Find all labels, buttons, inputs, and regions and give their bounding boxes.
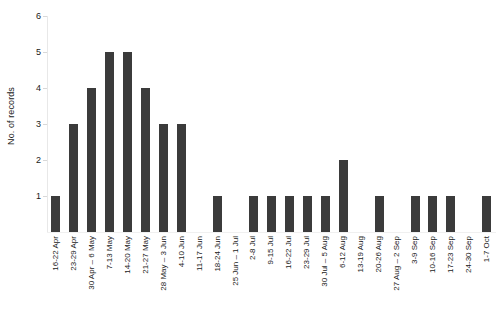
bar xyxy=(213,196,222,232)
x-axis-label-slot: 16-22 Jul xyxy=(280,236,298,318)
bar xyxy=(159,124,168,232)
x-axis-tick-label: 28 May – 3 Jun xyxy=(160,236,168,291)
x-axis-label-slot: 13-19 Aug xyxy=(352,236,370,318)
bar-slot xyxy=(227,16,245,232)
y-axis-tick-label: 3 xyxy=(36,119,41,129)
bar xyxy=(482,196,491,232)
x-axis-label-slot: 2-8 Jul xyxy=(244,236,262,318)
y-axis-tick-label: 2 xyxy=(36,155,41,165)
y-axis-tick-label: 5 xyxy=(36,47,41,57)
bar xyxy=(249,196,258,232)
x-axis-label-slot: 3-9 Sep xyxy=(406,236,424,318)
x-axis-tick-label: 23-29 Apr xyxy=(70,236,78,271)
bar-slot xyxy=(406,16,424,232)
y-axis-title-label: No. of records xyxy=(6,87,16,145)
x-axis-labels: 16-22 Apr23-29 Apr30 Apr – 6 May7-13 May… xyxy=(47,236,496,318)
bar xyxy=(177,124,186,232)
x-axis-label-slot: 11-17 Jun xyxy=(191,236,209,318)
x-axis-label-slot: 30 Jul – 5 Aug xyxy=(316,236,334,318)
bar-slot xyxy=(424,16,442,232)
bar-slot xyxy=(209,16,227,232)
bar-chart: No. of records 123456 16-22 Apr23-29 Apr… xyxy=(0,0,504,321)
bar xyxy=(339,160,348,232)
bar-slot xyxy=(173,16,191,232)
x-axis-label-slot: 20-26 Aug xyxy=(370,236,388,318)
x-axis-tick-label: 14-20 May xyxy=(124,236,132,274)
x-axis-tick-label: 16-22 Apr xyxy=(52,236,60,271)
x-axis-label-slot: 24-30 Sep xyxy=(460,236,478,318)
bar-slot xyxy=(370,16,388,232)
x-axis-label-slot: 25 Jun – 1 Jul xyxy=(227,236,245,318)
bar-slot xyxy=(191,16,209,232)
bar xyxy=(51,196,60,232)
x-axis-tick-label: 6-12 Aug xyxy=(339,236,347,268)
bar-slot xyxy=(65,16,83,232)
x-axis-tick-label: 23-29 Jul xyxy=(303,236,311,269)
x-axis-label-slot: 10-16 Sep xyxy=(424,236,442,318)
x-axis-label-slot: 23-29 Jul xyxy=(298,236,316,318)
bar xyxy=(285,196,294,232)
x-axis-label-slot: 6-12 Aug xyxy=(334,236,352,318)
x-axis-tick-label: 4-10 Jun xyxy=(178,236,186,267)
bar-slot xyxy=(442,16,460,232)
x-axis-label-slot: 27 Aug – 2 Sep xyxy=(388,236,406,318)
bar-slot xyxy=(280,16,298,232)
x-axis-tick-label: 25 Jun – 1 Jul xyxy=(232,236,240,286)
bar-slot xyxy=(478,16,496,232)
bar-slot xyxy=(244,16,262,232)
x-axis-tick-label: 10-16 Sep xyxy=(429,236,437,273)
bar-slot xyxy=(262,16,280,232)
x-axis-tick-label: 30 Apr – 6 May xyxy=(88,236,96,290)
y-axis-tick-label: 4 xyxy=(36,83,41,93)
bar xyxy=(267,196,276,232)
x-axis-tick-label: 27 Aug – 2 Sep xyxy=(393,236,401,291)
bar xyxy=(375,196,384,232)
y-axis-tick-label: 1 xyxy=(36,191,41,201)
bar-slot xyxy=(83,16,101,232)
x-axis-tick-label: 16-22 Jul xyxy=(285,236,293,269)
plot-area: 123456 xyxy=(47,16,496,232)
bar-slot xyxy=(119,16,137,232)
x-axis-tick-label: 21-27 May xyxy=(142,236,150,274)
x-axis-label-slot: 23-29 Apr xyxy=(65,236,83,318)
x-axis-label-slot: 1-7 Oct xyxy=(478,236,496,318)
x-axis-label-slot: 4-10 Jun xyxy=(173,236,191,318)
bar xyxy=(123,52,132,232)
x-axis-label-slot: 28 May – 3 Jun xyxy=(155,236,173,318)
x-axis-tick-label: 1-7 Oct xyxy=(483,236,491,262)
x-axis-tick-label: 2-8 Jul xyxy=(249,236,257,260)
bar xyxy=(141,88,150,232)
bar-slot xyxy=(47,16,65,232)
x-axis-label-slot: 18-24 Jun xyxy=(209,236,227,318)
x-axis-tick-label: 24-30 Sep xyxy=(465,236,473,273)
bar-slot xyxy=(101,16,119,232)
x-axis-tick-label: 18-24 Jun xyxy=(214,236,222,272)
x-axis-label-slot: 7-13 May xyxy=(101,236,119,318)
x-axis-tick-label: 3-9 Sep xyxy=(411,236,419,264)
bar-slot xyxy=(460,16,478,232)
x-axis-tick-label: 17-23 Sep xyxy=(447,236,455,273)
x-axis-label-slot: 21-27 May xyxy=(137,236,155,318)
bar xyxy=(105,52,114,232)
bar-slot xyxy=(334,16,352,232)
x-axis-label-slot: 14-20 May xyxy=(119,236,137,318)
x-axis-tick-label: 13-19 Aug xyxy=(357,236,365,272)
bar-slot xyxy=(155,16,173,232)
bar-slot xyxy=(137,16,155,232)
x-axis-tick-label: 30 Jul – 5 Aug xyxy=(321,236,329,287)
bar-series xyxy=(47,16,496,232)
bar xyxy=(303,196,312,232)
bar xyxy=(446,196,455,232)
bar xyxy=(87,88,96,232)
x-axis-label-slot: 9-15 Jul xyxy=(262,236,280,318)
bar xyxy=(69,124,78,232)
x-axis-tick-label: 20-26 Aug xyxy=(375,236,383,272)
x-axis-label-slot: 30 Apr – 6 May xyxy=(83,236,101,318)
bar xyxy=(321,196,330,232)
x-axis-label-slot: 16-22 Apr xyxy=(47,236,65,318)
bar-slot xyxy=(388,16,406,232)
bar-slot xyxy=(298,16,316,232)
bar xyxy=(428,196,437,232)
x-axis-tick-label: 7-13 May xyxy=(106,236,114,269)
bar xyxy=(411,196,420,232)
